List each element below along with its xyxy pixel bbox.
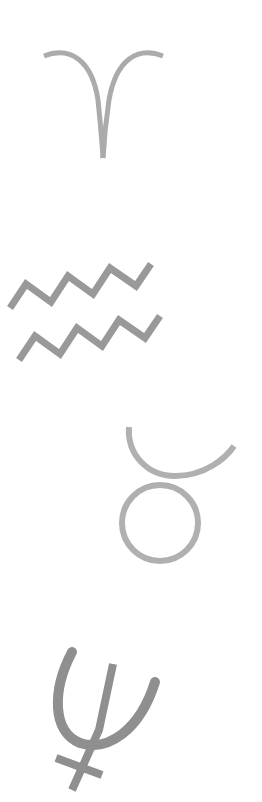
aries-icon xyxy=(0,0,262,200)
aquarius-icon xyxy=(0,230,262,390)
taurus-icon xyxy=(0,410,262,590)
neptune-icon xyxy=(0,600,262,802)
